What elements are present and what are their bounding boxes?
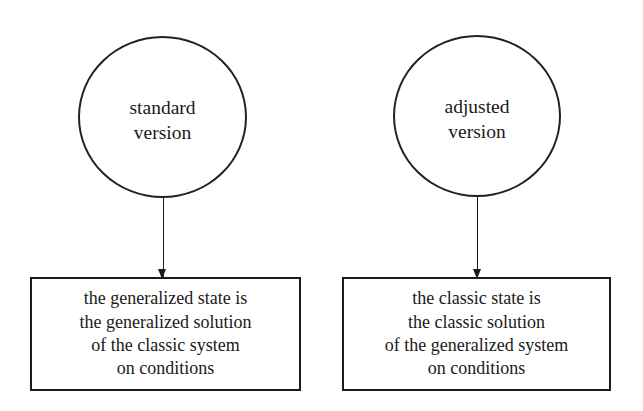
node-generalized-statement-line-2: the generalized solution bbox=[80, 311, 252, 334]
node-generalized-statement-line-3: of the classic system bbox=[91, 334, 239, 357]
node-classic-statement-line-2: the classic solution bbox=[408, 311, 545, 334]
node-classic-statement-line-3: of the generalized system bbox=[385, 334, 568, 357]
diagram-canvas: standard version adjusted version the ge… bbox=[0, 0, 643, 411]
node-standard-version-text: standard version bbox=[129, 96, 195, 146]
node-generalized-statement-line-1: the generalized state is bbox=[84, 287, 247, 310]
node-adjusted-version-line-2: version bbox=[445, 120, 510, 145]
node-adjusted-version-line-1: adjusted bbox=[445, 95, 510, 120]
node-adjusted-version-text: adjusted version bbox=[445, 95, 510, 145]
node-adjusted-version: adjusted version bbox=[393, 35, 561, 197]
node-standard-version-line-2: version bbox=[129, 121, 195, 146]
node-generalized-statement: the generalized state is the generalized… bbox=[30, 277, 301, 391]
node-classic-statement-line-1: the classic state is bbox=[412, 287, 540, 310]
arrow-shaft bbox=[163, 197, 164, 278]
node-generalized-statement-line-4: on conditions bbox=[117, 357, 215, 380]
node-standard-version: standard version bbox=[78, 36, 247, 198]
node-classic-statement: the classic state is the classic solutio… bbox=[342, 277, 611, 391]
arrow-shaft bbox=[477, 197, 478, 278]
node-standard-version-line-1: standard bbox=[129, 96, 195, 121]
node-classic-statement-line-4: on conditions bbox=[428, 357, 526, 380]
